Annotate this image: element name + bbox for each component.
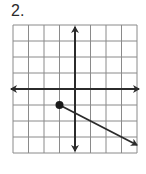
ray-line — [60, 105, 138, 145]
plotted-ray — [56, 101, 138, 145]
closed-endpoint-dot — [56, 101, 64, 109]
axes — [11, 27, 139, 151]
coordinate-graph — [0, 0, 146, 174]
